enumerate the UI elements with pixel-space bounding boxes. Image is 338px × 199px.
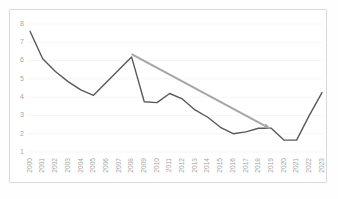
x-axis-tick-label: 2007 <box>115 158 122 173</box>
x-axis-tick-labels: 2000200120022003200420052006200720082009… <box>26 158 325 173</box>
x-axis-tick-label: 2008 <box>127 158 134 173</box>
y-axis-tick-label: 5 <box>20 75 24 82</box>
y-axis-tick-label: 6 <box>20 56 24 63</box>
x-axis-tick-label: 2016 <box>229 158 236 173</box>
x-axis-tick-label: 2022 <box>305 158 312 173</box>
x-axis-tick-label: 2021 <box>292 158 299 173</box>
y-axis-tick-label: 1 <box>20 148 24 155</box>
x-axis-tick-label: 2001 <box>38 158 45 173</box>
x-axis-tick-label: 2005 <box>89 158 96 173</box>
x-axis-tick-label: 2000 <box>26 158 33 173</box>
gridlines <box>28 24 322 152</box>
x-axis-tick-label: 2003 <box>64 158 71 173</box>
chart-figure: 12345678 2000200120022003200420052006200… <box>0 0 338 199</box>
x-axis-tick-label: 2006 <box>102 158 109 173</box>
y-axis-tick-label: 4 <box>20 93 24 100</box>
x-axis-tick-label: 2011 <box>165 158 172 173</box>
y-axis-tick-label: 2 <box>20 130 24 137</box>
line-chart: 12345678 2000200120022003200420052006200… <box>0 0 338 199</box>
y-axis-tick-labels: 12345678 <box>20 20 24 155</box>
y-axis-tick-label: 7 <box>20 38 24 45</box>
x-axis-tick-label: 2017 <box>242 158 249 173</box>
data-series-group <box>30 31 322 140</box>
x-axis-tick-label: 2020 <box>280 158 287 173</box>
x-axis-tick-label: 2023 <box>318 158 325 173</box>
x-axis-tick-label: 2015 <box>216 158 223 173</box>
trend-arrow-shaft <box>132 54 265 125</box>
x-axis-tick-label: 2014 <box>203 158 210 173</box>
trend-arrow-annotation <box>132 54 272 129</box>
x-axis-tick-label: 2013 <box>191 158 198 173</box>
y-axis-tick-label: 8 <box>20 20 24 27</box>
x-axis-tick-label: 2004 <box>77 158 84 173</box>
y-axis-tick-label: 3 <box>20 111 24 118</box>
x-axis-tick-label: 2018 <box>254 158 261 173</box>
x-axis-tick-label: 2012 <box>178 158 185 173</box>
x-axis-tick-label: 2009 <box>140 158 147 173</box>
x-axis-tick-label: 2002 <box>51 158 58 173</box>
data-line-value <box>30 31 322 140</box>
x-axis-tick-label: 2010 <box>153 158 160 173</box>
x-axis-tick-label: 2019 <box>267 158 274 173</box>
